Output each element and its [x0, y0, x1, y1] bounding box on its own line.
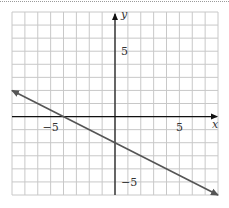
- axes: [12, 14, 217, 195]
- x-axis-label: x: [212, 118, 219, 131]
- x-tick-label: 5: [176, 121, 183, 134]
- x-tick-label: −5: [43, 121, 59, 134]
- y-axis-label: y: [120, 8, 128, 21]
- coordinate-plane: xy−555−5: [0, 0, 229, 208]
- y-tick-label: −5: [121, 176, 137, 189]
- y-tick-label: 5: [121, 45, 128, 58]
